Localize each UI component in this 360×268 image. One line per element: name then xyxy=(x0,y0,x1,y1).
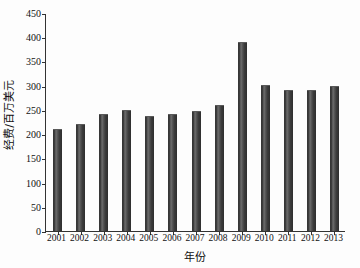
bar xyxy=(238,42,247,231)
bar xyxy=(330,86,339,231)
bar xyxy=(192,111,201,231)
y-tick-label: 300 xyxy=(26,82,41,92)
y-tick-label: 350 xyxy=(26,57,41,67)
bar xyxy=(168,114,177,231)
bar xyxy=(284,90,293,231)
y-tick-label: 150 xyxy=(26,154,41,164)
y-tick-label: 450 xyxy=(26,9,41,19)
x-axis-tick-labels: 2001200220032004200520062007200820092010… xyxy=(45,233,345,247)
x-tick-label: 2010 xyxy=(255,233,274,244)
bar xyxy=(307,90,316,231)
x-tick-label: 2001 xyxy=(47,233,66,244)
x-tick-label: 2007 xyxy=(186,233,205,244)
y-tick-label: 0 xyxy=(36,227,41,237)
x-tick-label: 2012 xyxy=(301,233,320,244)
plot-area xyxy=(45,14,345,232)
bar xyxy=(76,124,85,231)
y-axis-title-text: 经费/百万美元 xyxy=(0,80,16,150)
x-tick-label: 2008 xyxy=(209,233,228,244)
y-tick-label: 200 xyxy=(26,130,41,140)
bar xyxy=(215,105,224,231)
y-tick-label: 400 xyxy=(26,33,41,43)
x-tick-label: 2005 xyxy=(139,233,158,244)
x-tick-label: 2013 xyxy=(324,233,343,244)
x-tick-label: 2002 xyxy=(70,233,89,244)
x-tick-label: 2006 xyxy=(162,233,181,244)
bar xyxy=(145,116,154,231)
y-tick-label: 250 xyxy=(26,106,41,116)
bar xyxy=(99,114,108,231)
y-tick-label: 50 xyxy=(31,203,41,213)
bar xyxy=(53,129,62,231)
x-tick-label: 2009 xyxy=(232,233,251,244)
x-axis-title: 年份 xyxy=(45,248,345,264)
y-axis-tick-labels: 050100150200250300350400450 xyxy=(16,0,44,232)
y-axis-title: 经费/百万美元 xyxy=(0,0,16,230)
x-tick-label: 2011 xyxy=(278,233,297,244)
y-tick-label: 100 xyxy=(26,179,41,189)
bar xyxy=(122,110,131,231)
bar-series xyxy=(46,14,345,231)
bar xyxy=(261,85,270,231)
x-tick-label: 2003 xyxy=(93,233,112,244)
bar-chart-figure: 经费/百万美元 050100150200250300350400450 2001… xyxy=(0,0,360,268)
x-tick-label: 2004 xyxy=(116,233,135,244)
